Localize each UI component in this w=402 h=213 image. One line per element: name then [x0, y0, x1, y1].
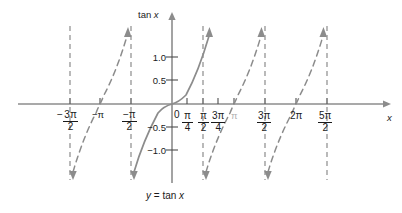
y-axis-label-negative-1.0: −1.0 [140, 145, 166, 156]
fraction-numerator: 3π [211, 111, 225, 122]
axes-group [18, 12, 391, 183]
caption-y: y [146, 190, 151, 201]
x-axis-label-negative-3pi-over-2: − 3π 2 [57, 110, 78, 132]
curve-branch-4-arrow-up [320, 27, 328, 37]
curve-branch-2-arrow-up [206, 27, 214, 37]
fraction-numerator: 3π [63, 110, 77, 121]
x-axis-label-2pi: 2π [290, 111, 302, 121]
fraction-denominator: 2 [126, 122, 134, 133]
curve-branch-2-arrow-down [130, 171, 137, 180]
x-axis-label-pi: π [231, 111, 238, 121]
x-axis-label-negative-pi-over-2: −π 2 [122, 110, 137, 132]
x-axis-label-pi-over-4: π 4 [182, 111, 193, 133]
curve-branch-1-arrow-up [124, 27, 132, 37]
fraction-denominator: 2 [67, 122, 75, 133]
x-axis-label-5pi-over-2: 5π 2 [318, 111, 332, 133]
asymptotes-group [70, 26, 327, 180]
fraction-stack: 3π 2 [63, 110, 77, 132]
pi-symbol: π [98, 109, 105, 120]
x-axis-label-zero: 0 [174, 110, 180, 120]
curve-branch-3-arrow-up [258, 27, 266, 37]
x-axis-arrowhead [383, 100, 391, 107]
x-axis-label-3pi-over-4: 3π 4 [211, 111, 225, 133]
x-axis-label-pi-over-2: π 2 [198, 111, 209, 133]
caption-variable: x [179, 190, 184, 201]
fraction-denominator: 2 [200, 123, 208, 134]
y-axis-title-variable: x [154, 9, 159, 20]
fraction-stack: −π 2 [122, 110, 137, 132]
fraction-numerator: π [183, 111, 192, 122]
y-axis-label-0.5: 0.5 [146, 75, 166, 86]
fraction-numerator: 5π [318, 111, 332, 122]
y-axis-label-1.0: 1.0 [146, 52, 166, 63]
y-axis-label-negative-0.5: −0.5 [140, 122, 166, 133]
y-axis-arrowhead [168, 12, 175, 20]
minus-sign: − [57, 110, 63, 120]
caption-equals: = [154, 190, 160, 201]
x-tick-marks [70, 98, 327, 104]
curve-branch-4-arrow-down [264, 171, 271, 180]
y-axis-title: tan x [138, 9, 159, 20]
plot-canvas [0, 0, 402, 213]
x-axis-label-negative-pi: −π [92, 110, 104, 120]
fraction-numerator: π [199, 111, 208, 122]
fraction-numerator: −π [122, 110, 137, 121]
fraction-denominator: 2 [260, 123, 268, 134]
fraction-numerator: 3π [257, 111, 271, 122]
x-axis-label-3pi-over-2: 3π 2 [257, 111, 271, 133]
curve-branch-3-arrow-down [202, 171, 209, 180]
pi-symbol: π [129, 109, 136, 120]
fraction-denominator: 4 [214, 123, 222, 134]
x-axis-title: x [387, 112, 392, 123]
fraction-denominator: 4 [184, 123, 192, 134]
fraction-denominator: 2 [321, 123, 329, 134]
tangent-function-graph: 1.0 0.5 −0.5 −1.0 − 3π 2 −π −π 2 0 π 4 π… [0, 0, 402, 213]
figure-caption: y = tan x [146, 190, 184, 201]
caption-function: tan x [162, 190, 184, 201]
curve-branch-1-arrow-down [69, 171, 76, 180]
